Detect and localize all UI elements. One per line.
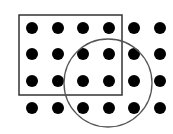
dot xyxy=(26,48,38,60)
dot xyxy=(154,22,166,34)
dot xyxy=(103,22,115,34)
dot xyxy=(26,102,38,114)
dot xyxy=(26,22,38,34)
dot xyxy=(103,102,115,114)
dot xyxy=(154,102,166,114)
dot-grid-diagram xyxy=(0,0,173,134)
dot xyxy=(52,75,64,87)
dot xyxy=(77,75,89,87)
dot xyxy=(26,75,38,87)
dot xyxy=(52,22,64,34)
dot xyxy=(77,102,89,114)
dot xyxy=(154,75,166,87)
background xyxy=(0,0,173,134)
dot xyxy=(52,102,64,114)
dot xyxy=(128,102,140,114)
dot xyxy=(128,75,140,87)
dot xyxy=(128,48,140,60)
dot xyxy=(77,22,89,34)
dot xyxy=(154,48,166,60)
dot xyxy=(128,22,140,34)
dot xyxy=(103,75,115,87)
dot xyxy=(103,48,115,60)
dot xyxy=(52,48,64,60)
